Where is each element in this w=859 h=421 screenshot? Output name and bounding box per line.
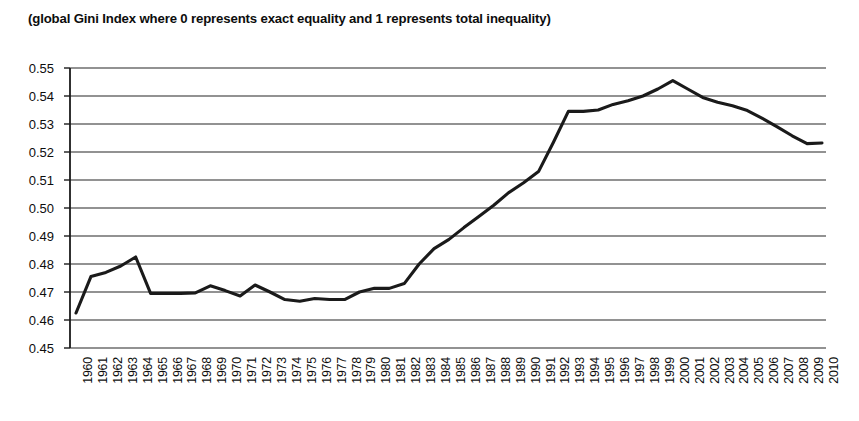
x-tick-label: 1979 (364, 357, 378, 384)
x-tick-label: 1987 (484, 357, 498, 384)
chart-title: (global Gini Index where 0 represents ex… (28, 11, 551, 26)
x-tick-label: 1974 (290, 357, 304, 384)
x-tick-label: 1985 (454, 357, 468, 384)
x-tick-label: 1999 (663, 357, 677, 384)
x-tick-label: 1994 (588, 357, 602, 384)
x-tick-label: 1967 (185, 357, 199, 384)
x-axis-tick-labels: 1960196119621963196419651966196719681969… (0, 355, 859, 421)
x-tick-label: 1995 (603, 357, 617, 384)
x-tick-label: 1993 (573, 357, 587, 384)
x-tick-label: 1998 (648, 357, 662, 384)
x-tick-label: 1961 (96, 357, 110, 384)
x-tick-label: 1991 (544, 357, 558, 384)
x-tick-label: 1960 (81, 357, 95, 384)
x-tick-label: 1970 (230, 357, 244, 384)
x-tick-label: 1992 (558, 357, 572, 384)
x-tick-label: 1996 (618, 357, 632, 384)
x-tick-label: 1968 (200, 357, 214, 384)
plot-area (0, 55, 859, 355)
x-tick-label: 2004 (737, 357, 751, 384)
x-tick-label: 1963 (126, 357, 140, 384)
x-tick-label: 2005 (752, 357, 766, 384)
x-tick-label: 2008 (797, 357, 811, 384)
x-tick-label: 1969 (215, 357, 229, 384)
x-tick-label: 1981 (394, 357, 408, 384)
x-tick-label: 1975 (305, 357, 319, 384)
x-tick-label: 1962 (111, 357, 125, 384)
x-tick-label: 2006 (767, 357, 781, 384)
x-tick-label: 2000 (678, 357, 692, 384)
x-tick-label: 1972 (260, 357, 274, 384)
x-tick-label: 2001 (693, 357, 707, 384)
x-tick-label: 1976 (320, 357, 334, 384)
x-tick-label: 1988 (499, 357, 513, 384)
x-tick-label: 1966 (171, 357, 185, 384)
x-tick-label: 2002 (708, 357, 722, 384)
x-tick-label: 2009 (812, 357, 826, 384)
x-tick-label: 2003 (723, 357, 737, 384)
x-tick-label: 1986 (469, 357, 483, 384)
plot-svg (0, 55, 859, 355)
x-tick-label: 1973 (275, 357, 289, 384)
x-tick-label: 1971 (245, 357, 259, 384)
x-tick-label: 1983 (424, 357, 438, 384)
x-tick-label: 1982 (409, 357, 423, 384)
data-series-line (76, 81, 822, 313)
x-tick-label: 1980 (379, 357, 393, 384)
gini-index-line-chart: (global Gini Index where 0 represents ex… (0, 0, 859, 421)
x-tick-label: 1964 (141, 357, 155, 384)
x-tick-label: 1977 (335, 357, 349, 384)
x-tick-label: 2010 (827, 357, 841, 384)
x-tick-label: 1997 (633, 357, 647, 384)
x-tick-label: 1990 (529, 357, 543, 384)
x-tick-label: 2007 (782, 357, 796, 384)
x-tick-label: 1984 (439, 357, 453, 384)
x-tick-label: 1965 (156, 357, 170, 384)
x-tick-label: 1989 (514, 357, 528, 384)
x-tick-label: 1978 (350, 357, 364, 384)
